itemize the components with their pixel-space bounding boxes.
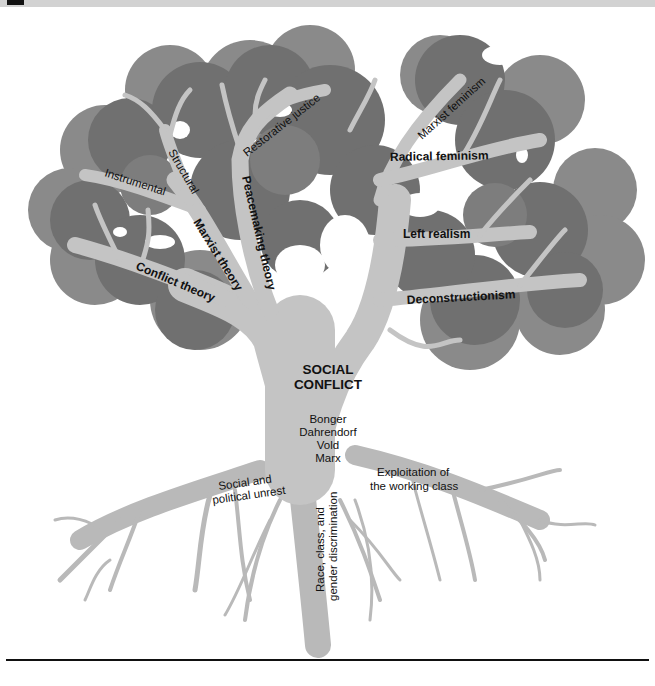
label-left-realism: Left realism: [403, 227, 470, 241]
trunk-title-line1: SOCIAL: [302, 362, 353, 377]
social-conflict-tree-diagram: Restorative justice Peacemaking theory S…: [0, 0, 655, 686]
theorist-bonger: Bonger: [309, 413, 346, 425]
root-race-class-line2: gender discrimination: [327, 492, 339, 601]
theorist-marx: Marx: [315, 452, 341, 464]
bottom-divider: [6, 659, 649, 661]
theorist-dahrendorf: Dahrendorf: [299, 426, 357, 438]
root-race-class-line1: Race, class, and: [314, 507, 326, 592]
root-labels: Social and political unrest Race, class,…: [212, 466, 459, 601]
label-radical-feminism: Radical feminism: [390, 148, 489, 164]
theorist-vold: Vold: [317, 439, 339, 451]
root-exploitation-line1: Exploitation of: [377, 466, 450, 478]
trunk-title-line2: CONFLICT: [294, 377, 363, 392]
canopy: [28, 25, 645, 370]
root-exploitation-line2: the working class: [370, 480, 458, 492]
